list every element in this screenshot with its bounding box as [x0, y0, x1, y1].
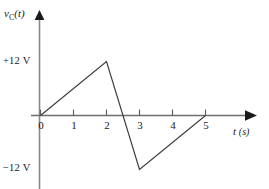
negative-peak-label: −12 V — [3, 162, 30, 173]
x-tick-label-5: 5 — [199, 119, 213, 131]
waveform-plot — [0, 0, 269, 189]
x-tick-label-0: 0 — [34, 119, 48, 131]
x-axis-arrowhead — [245, 110, 257, 121]
positive-peak-label: +12 V — [3, 55, 30, 66]
y-axis-group — [35, 10, 45, 189]
x-tick-label-3: 3 — [133, 119, 147, 131]
y-axis-label: vC(t) — [4, 8, 25, 22]
x-tick-label-2: 2 — [100, 119, 114, 131]
y-axis-arrowhead — [35, 10, 45, 20]
x-axis-label-unit: (s) — [239, 126, 250, 137]
x-axis-label: t (s) — [233, 126, 249, 137]
x-tick-label-4: 4 — [166, 119, 180, 131]
y-axis-label-argument: (t) — [14, 7, 24, 19]
waveform-figure: vC(t) t (s) +12 V −12 V 0 1 2 3 4 5 — [0, 0, 269, 189]
x-tick-label-1: 1 — [67, 119, 81, 131]
